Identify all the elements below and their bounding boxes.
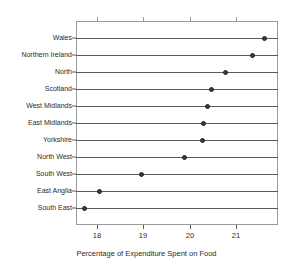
x-axis-tick-label: 18 <box>85 231 109 240</box>
row-guide-line <box>76 55 278 56</box>
y-axis-label-west-midlands: West Midlands <box>0 102 72 110</box>
x-axis-tick-top <box>190 17 191 21</box>
x-axis-tick <box>143 225 144 229</box>
row-guide-line <box>76 208 278 209</box>
row-guide-line <box>76 140 278 141</box>
x-axis-tick-label: 21 <box>224 231 248 240</box>
dot-plot-chart: WalesNorthern IrelandNorthScotlandWest M… <box>0 0 293 272</box>
y-axis-label-yorkshire: Yorkshire <box>0 136 72 144</box>
x-axis-tick-top <box>97 17 98 21</box>
y-axis-label-scotland: Scotland <box>0 85 72 93</box>
x-axis-tick-label: 19 <box>131 231 155 240</box>
y-axis-label-east-midlands: East Midlands <box>0 119 72 127</box>
x-axis-title: Percentage of Expenditure Spent on Food <box>0 249 293 259</box>
row-guide-line <box>76 89 278 90</box>
y-axis-label-south-west: South West <box>0 170 72 178</box>
data-point <box>209 87 214 92</box>
row-guide-line <box>76 157 278 158</box>
y-axis-label-east-anglia: East Anglia <box>0 187 72 195</box>
row-guide-line <box>76 106 278 107</box>
data-point <box>201 121 206 126</box>
y-axis-label-northern-ireland: Northern Ireland <box>0 51 72 59</box>
x-axis-tick-top <box>143 17 144 21</box>
data-point <box>205 104 210 109</box>
row-guide-line <box>76 123 278 124</box>
row-guide-line <box>76 191 278 192</box>
y-axis-label-north: North <box>0 68 72 76</box>
x-axis-tick-top <box>236 17 237 21</box>
x-axis-tick <box>97 225 98 229</box>
data-point <box>139 172 144 177</box>
data-point <box>182 155 187 160</box>
x-axis-tick <box>190 225 191 229</box>
row-guide-line <box>76 38 278 39</box>
y-axis-label-north-west: North West <box>0 153 72 161</box>
row-guide-line <box>76 72 278 73</box>
y-axis-label-south-east: South East <box>0 204 72 212</box>
data-point <box>82 206 87 211</box>
x-axis-tick <box>236 225 237 229</box>
y-axis-label-wales: Wales <box>0 34 72 42</box>
data-point <box>250 53 255 58</box>
data-point <box>97 189 102 194</box>
x-axis-tick-label: 20 <box>178 231 202 240</box>
data-point <box>200 138 205 143</box>
row-guide-line <box>76 174 278 175</box>
